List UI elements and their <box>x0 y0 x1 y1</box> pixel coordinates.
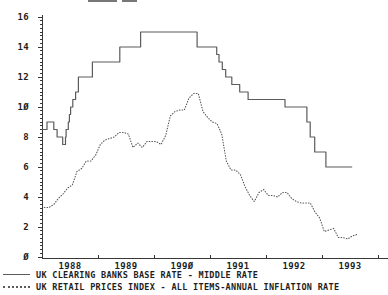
svg-text:16: 16 <box>18 12 29 22</box>
rates-vs-inflation-chart: Ø24681Ø12141619881989199Ø199119921993 <box>0 0 388 295</box>
legend-label-base-rate: UK CLEARING BANKS BASE RATE - MIDDLE RAT… <box>36 270 258 280</box>
svg-text:8: 8 <box>23 132 29 142</box>
svg-text:12: 12 <box>18 72 29 82</box>
svg-text:1Ø: 1Ø <box>18 102 30 112</box>
svg-text:2: 2 <box>23 222 29 232</box>
solid-line-sample <box>3 274 30 275</box>
legend-item-inflation: UK RETAIL PRICES INDEX - ALL ITEMS-ANNUA… <box>3 281 339 292</box>
chart-screenshot: Ø24681Ø12141619881989199Ø199119921993 UK… <box>0 0 388 295</box>
svg-text:Ø: Ø <box>22 252 29 262</box>
svg-text:14: 14 <box>18 42 30 52</box>
svg-text:4: 4 <box>23 192 29 202</box>
dotted-line-sample <box>3 286 30 288</box>
svg-text:1992: 1992 <box>283 261 306 271</box>
legend-item-base-rate: UK CLEARING BANKS BASE RATE - MIDDLE RAT… <box>3 269 258 280</box>
legend-label-inflation: UK RETAIL PRICES INDEX - ALL ITEMS-ANNUA… <box>36 282 339 292</box>
svg-text:6: 6 <box>23 162 29 172</box>
svg-text:1993: 1993 <box>339 261 362 271</box>
